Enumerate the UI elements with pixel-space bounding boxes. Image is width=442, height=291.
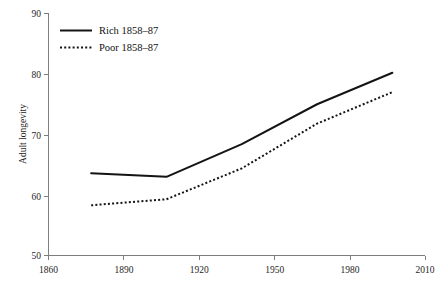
legend-label-rich: Rich 1858–87 — [99, 25, 158, 36]
y-tick-label-90: 90 — [32, 9, 42, 19]
x-tick-label-1980: 1980 — [341, 265, 360, 275]
x-tick-label-1950: 1950 — [265, 265, 284, 275]
y-tick-label-70: 70 — [32, 131, 42, 141]
y-tick-label-50: 50 — [32, 251, 42, 261]
y-axis-title: Adult longevity — [18, 104, 28, 164]
legend-label-poor: Poor 1858–87 — [99, 42, 158, 53]
y-tick-label-60: 60 — [32, 192, 42, 202]
x-tick-label-2010: 2010 — [416, 265, 435, 275]
line-chart: 90 80 70 60 50 1860 1890 1920 1950 1980 … — [0, 0, 442, 291]
y-tick-label-80: 80 — [32, 70, 42, 80]
chart-background — [0, 0, 442, 291]
x-tick-label-1860: 1860 — [39, 265, 58, 275]
chart-container: 90 80 70 60 50 1860 1890 1920 1950 1980 … — [0, 0, 442, 291]
x-tick-label-1920: 1920 — [190, 265, 209, 275]
x-tick-label-1890: 1890 — [114, 265, 133, 275]
